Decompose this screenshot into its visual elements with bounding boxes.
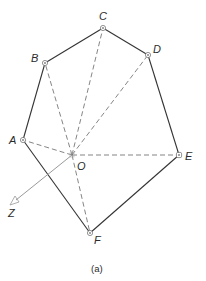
point-e-marker-icon [176, 152, 181, 157]
spoke-o-a [23, 140, 72, 155]
label-b: B [31, 52, 38, 64]
point-a-marker-icon [20, 137, 25, 142]
label-a: A [8, 134, 16, 146]
point-markers [20, 25, 181, 235]
label-c: C [99, 10, 107, 22]
z-axis-arrowhead-icon [10, 196, 19, 205]
edge-d-e [148, 55, 179, 155]
spoke-o-c [72, 28, 103, 155]
point-b-marker-icon [42, 60, 47, 65]
edge-b-c [45, 28, 103, 63]
label-d: D [153, 43, 161, 55]
z-axis-line [16, 155, 72, 200]
point-labels: A B C D E F O Z [7, 10, 193, 246]
edge-e-f [90, 155, 179, 233]
label-z: Z [7, 207, 16, 219]
figure-caption: (a) [91, 263, 103, 274]
spoke-o-d [72, 55, 148, 155]
z-axis [10, 155, 72, 205]
label-f: F [94, 234, 102, 246]
polygon-edges [23, 28, 179, 233]
label-e: E [185, 150, 193, 162]
label-o: O [77, 160, 86, 172]
edge-a-b [23, 63, 45, 140]
spoke-o-b [45, 63, 72, 155]
point-c-marker-icon [100, 25, 105, 30]
hexagon-diagram: A B C D E F O Z (a) [0, 0, 206, 281]
point-f-marker-icon [87, 230, 92, 235]
dashed-spokes [23, 28, 179, 233]
edge-c-d [103, 28, 148, 55]
point-d-marker-icon [145, 52, 150, 57]
